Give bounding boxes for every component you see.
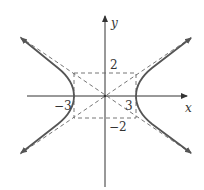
tick-label-y-neg: −2 — [109, 120, 127, 134]
right-branch-lower — [136, 96, 191, 153]
tick-label-y-pos: 2 — [110, 58, 118, 72]
left-branch-upper — [21, 38, 74, 96]
x-axis-label: x — [185, 101, 192, 115]
tick-label-x-pos: 3 — [125, 99, 133, 113]
y-axis-label: y — [110, 16, 118, 30]
hyperbola-diagram: y x 2 −2 3 −3 — [0, 0, 204, 190]
right-branch-upper — [136, 38, 191, 96]
origin-point — [104, 95, 107, 98]
tick-label-x-neg: −3 — [54, 99, 72, 113]
